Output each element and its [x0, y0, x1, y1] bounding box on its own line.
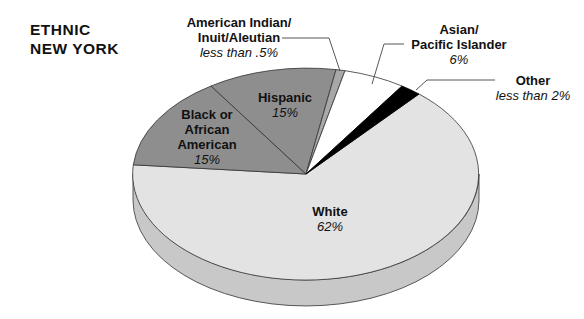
leader-line-other [416, 80, 495, 90]
label-asian: Asian/ Pacific Islander 6% [400, 22, 518, 67]
label-white-value: 62% [300, 219, 360, 234]
label-other: Other less than 2% [488, 73, 578, 103]
label-american-indian-value: less than .5% [175, 45, 303, 60]
label-white: White 62% [300, 204, 360, 234]
label-black-line-2: African [170, 122, 244, 137]
label-asian-value: 6% [400, 52, 518, 67]
label-black-line-3: American [170, 137, 244, 152]
label-hispanic: Hispanic 15% [250, 90, 320, 120]
label-asian-line-2: Pacific Islander [400, 37, 518, 52]
label-black-value: 15% [170, 152, 244, 167]
label-american-indian-line-1: American Indian/ [175, 15, 303, 30]
label-black: Black or African American 15% [170, 107, 244, 167]
label-other-value: less than 2% [488, 88, 578, 103]
label-hispanic-value: 15% [250, 105, 320, 120]
label-other-line-1: Other [488, 73, 578, 88]
label-white-line-1: White [300, 204, 360, 219]
label-black-line-1: Black or [170, 107, 244, 122]
label-american-indian: American Indian/ Inuit/Aleutian less tha… [175, 15, 303, 60]
label-hispanic-line-1: Hispanic [250, 90, 320, 105]
label-american-indian-line-2: Inuit/Aleutian [175, 30, 303, 45]
label-asian-line-1: Asian/ [400, 22, 518, 37]
